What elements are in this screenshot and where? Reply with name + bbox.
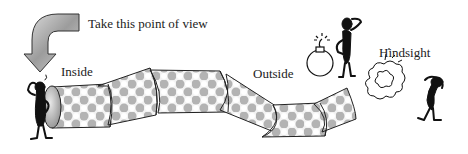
bomb-icon: [307, 33, 333, 76]
label-inside: Inside: [61, 65, 93, 78]
figure-outside-icon: [337, 18, 361, 77]
diagram-canvas: Take this point of view Inside Outside H…: [0, 0, 468, 154]
figure-inside-icon: [28, 75, 52, 139]
label-hindsight: Hindsight: [379, 46, 430, 59]
label-pov: Take this point of view: [88, 17, 208, 30]
label-outside: Outside: [253, 67, 293, 80]
figure-hindsight-icon: [418, 77, 443, 120]
